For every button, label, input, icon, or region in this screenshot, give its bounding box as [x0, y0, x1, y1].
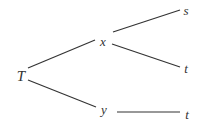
- edge-x-s: [113, 10, 180, 32]
- tree-diagram: T x y s t t: [0, 0, 204, 127]
- node-T: T: [17, 69, 25, 84]
- edge-T-y: [28, 80, 96, 107]
- node-t-lower: t: [185, 108, 189, 121]
- node-x: x: [100, 35, 106, 48]
- node-y: y: [101, 103, 107, 116]
- edge-T-x: [28, 40, 95, 68]
- node-s: s: [183, 4, 188, 17]
- node-t-upper: t: [184, 62, 188, 75]
- edge-x-t: [112, 44, 180, 67]
